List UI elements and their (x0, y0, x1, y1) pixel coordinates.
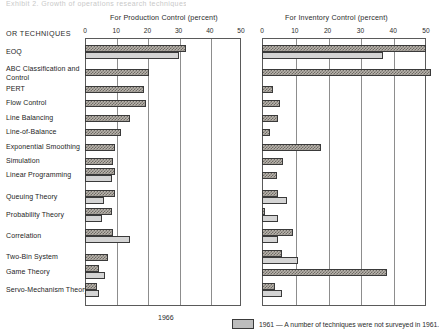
axis-tick: 30 (357, 27, 364, 34)
bar-1966 (262, 172, 277, 179)
bar-1966 (262, 115, 278, 122)
gridline (211, 39, 212, 305)
axis-tick: 50 (422, 27, 429, 34)
bar-1966 (262, 100, 280, 107)
bar-1966 (85, 115, 130, 122)
row-label: Queuing Theory (6, 193, 57, 202)
gridline (361, 39, 362, 305)
row-label: Line-of-Balance (6, 128, 57, 137)
bar-1961 (85, 197, 104, 204)
year-1966-label: 1966 (158, 314, 174, 321)
bar-1966 (85, 229, 113, 236)
bar-1966 (85, 100, 146, 107)
bar-1966 (85, 190, 115, 197)
bar-1966 (262, 69, 431, 76)
bar-1961 (85, 52, 179, 59)
bar-1966 (262, 190, 278, 197)
bar-1966 (262, 269, 387, 276)
production-panel-title: For Production Control (percent) (110, 13, 218, 22)
bar-1966 (85, 86, 144, 93)
bar-1966 (262, 45, 426, 52)
axis-tick: 0 (83, 27, 87, 34)
bar-1961 (85, 175, 112, 182)
row-label: Probability Theory (6, 211, 64, 220)
axis-tick: 10 (113, 27, 120, 34)
bar-1961 (262, 197, 287, 204)
bar-1966 (262, 129, 270, 136)
bar-1966 (85, 69, 149, 76)
row-label: Two-Bin System (6, 253, 58, 262)
row-label: Line Balancing (6, 114, 53, 123)
bar-1961 (262, 236, 278, 243)
bar-1961 (262, 215, 278, 222)
axis-tick: 30 (175, 27, 182, 34)
bar-1966 (262, 208, 265, 215)
bar-1966 (262, 86, 273, 93)
row-label: Simulation (6, 157, 40, 166)
bar-1966 (85, 168, 115, 175)
row-label: Flow Control (6, 99, 47, 108)
bar-1966 (85, 129, 121, 136)
legend-note: 1961 — A number of techniques were not s… (259, 321, 439, 328)
bar-1961 (85, 215, 102, 222)
bar-1966 (262, 144, 321, 151)
cropped-header-text: Exhibit 2. Growth of operations research… (6, 0, 186, 7)
gridline (394, 39, 395, 305)
row-label: PERT (6, 85, 25, 94)
gridline (148, 39, 149, 305)
axis-tick: 40 (390, 27, 397, 34)
row-label: Correlation (6, 232, 41, 241)
axis-tick: 0 (260, 27, 264, 34)
bar-1966 (262, 158, 283, 165)
row-label: ABC Classification and Control (6, 65, 84, 82)
bar-1966 (85, 265, 99, 272)
row-label: Servo-Mechanism Theory (6, 286, 88, 295)
gridline (296, 39, 297, 305)
bar-1966 (262, 229, 293, 236)
inventory-panel-title: For Inventory Control (percent) (285, 13, 388, 22)
bar-1966 (262, 283, 275, 290)
legend: 1961 — A number of techniques were not s… (232, 319, 439, 329)
axis-tick: 50 (237, 27, 244, 34)
or-techniques-label: OR TECHNIQUES (6, 29, 71, 38)
bar-1961 (262, 52, 383, 59)
bar-1966 (85, 45, 186, 52)
legend-swatch-1961 (232, 319, 254, 329)
gridline (117, 39, 118, 305)
bar-1961 (85, 236, 130, 243)
row-label: EOQ (6, 48, 22, 57)
axis-tick: 20 (324, 27, 331, 34)
inventory-plot-area (262, 38, 426, 306)
axis-tick: 20 (144, 27, 151, 34)
row-label: Exponential Smoothing (6, 143, 80, 152)
bar-1966 (85, 208, 112, 215)
bar-1961 (262, 290, 282, 297)
bar-1966 (85, 144, 115, 151)
gridline (180, 39, 181, 305)
bar-1961 (85, 272, 105, 279)
row-label: Game Theory (6, 268, 50, 277)
row-label: Linear Programming (6, 171, 71, 180)
bar-1966 (85, 158, 113, 165)
axis-tick: 40 (206, 27, 213, 34)
axis-tick: 10 (291, 27, 298, 34)
bar-1966 (85, 254, 108, 261)
bar-1966 (262, 250, 282, 257)
bar-1961 (262, 257, 298, 264)
bar-1966 (85, 283, 97, 290)
gridline (329, 39, 330, 305)
bar-1961 (85, 290, 99, 297)
